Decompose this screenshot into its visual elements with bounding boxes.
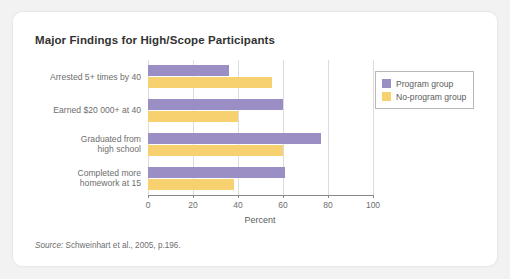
bar-program-group <box>148 133 321 144</box>
bar-no-program-group <box>148 179 234 190</box>
plot-area <box>148 60 373 195</box>
source-note: Source: Schweinhart et al., 2005, p.196. <box>35 241 181 250</box>
chart-plot-wrapper: Percent 020406080100Arrested 5+ times by… <box>13 12 497 266</box>
x-tick-label: 20 <box>188 200 197 210</box>
legend-item-program-group[interactable]: Program group <box>382 77 466 90</box>
figure-card: Major Findings for High/Scope Participan… <box>13 12 497 266</box>
category-label: Arrested 5+ times by 40 <box>23 60 141 94</box>
x-tick-label: 80 <box>323 200 332 210</box>
category-label: Completed more homework at 15 <box>23 161 141 195</box>
category-label-text: Earned $20 000+ at 40 <box>23 105 141 116</box>
x-tick-label: 60 <box>278 200 287 210</box>
x-axis-label: Percent <box>244 215 275 225</box>
bar-program-group <box>148 99 283 110</box>
legend-swatch-program-group <box>382 79 391 88</box>
x-tick-label: 100 <box>366 200 380 210</box>
legend-label-no-program-group: No-program group <box>396 92 466 102</box>
x-tick-mark <box>373 195 374 198</box>
chart-legend: Program group No-program group <box>375 71 474 109</box>
gridline <box>373 60 374 195</box>
x-tick-mark <box>148 195 149 198</box>
bar-program-group <box>148 65 229 76</box>
bar-program-group <box>148 167 285 178</box>
gridline <box>328 60 329 195</box>
category-label-text: Graduated from high school <box>23 134 141 155</box>
source-text: Schweinhart et al., 2005, p.196. <box>63 241 180 250</box>
x-tick-label: 40 <box>233 200 242 210</box>
category-label-text: Completed more homework at 15 <box>23 168 141 189</box>
x-tick-mark <box>328 195 329 198</box>
x-tick-mark <box>238 195 239 198</box>
x-tick-mark <box>283 195 284 198</box>
source-prefix: Source: <box>35 241 63 250</box>
category-label: Graduated from high school <box>23 128 141 162</box>
bar-no-program-group <box>148 145 283 156</box>
category-label-text: Arrested 5+ times by 40 <box>23 72 141 83</box>
legend-label-program-group: Program group <box>396 79 453 89</box>
legend-swatch-no-program-group <box>382 92 391 101</box>
bar-no-program-group <box>148 77 272 88</box>
category-label: Earned $20 000+ at 40 <box>23 94 141 128</box>
x-tick-label: 0 <box>146 200 151 210</box>
legend-item-no-program-group[interactable]: No-program group <box>382 90 466 103</box>
x-axis-line <box>148 195 374 196</box>
x-tick-mark <box>193 195 194 198</box>
bar-no-program-group <box>148 111 238 122</box>
